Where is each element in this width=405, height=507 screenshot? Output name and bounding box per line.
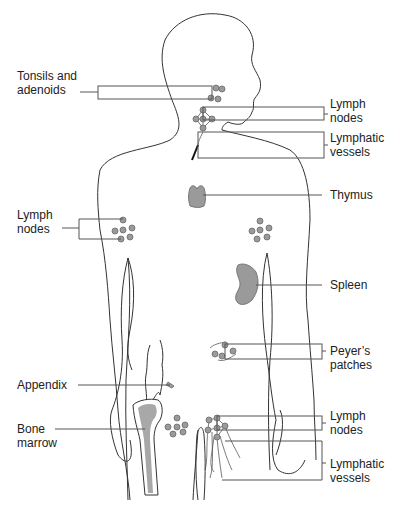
label-line: Lymph bbox=[330, 409, 366, 423]
inguinal-nodes-left bbox=[165, 415, 188, 437]
label-axillary-lymph-nodes: Lymph nodes bbox=[17, 208, 53, 236]
label-line: Lymph bbox=[17, 208, 53, 222]
label-line: Peyer’s bbox=[330, 344, 372, 358]
label-line: vessels bbox=[330, 471, 384, 485]
label-tonsils-and-adenoids: Tonsils and adenoids bbox=[17, 69, 77, 97]
label-neck-lymph-nodes: Lymph nodes bbox=[330, 97, 366, 125]
label-bone-marrow: Bone marrow bbox=[17, 422, 57, 450]
label-spleen: Spleen bbox=[330, 278, 367, 292]
label-line: Bone bbox=[17, 422, 57, 436]
axillary-nodes-left bbox=[112, 217, 135, 242]
label-neck-lymphatic-vessels: Lymphatic vessels bbox=[330, 131, 384, 159]
neck-vessel bbox=[198, 132, 203, 145]
inguinal-nodes-right bbox=[205, 415, 240, 478]
left-forearm bbox=[128, 258, 134, 370]
right-leg-inner bbox=[204, 435, 205, 500]
label-thymus: Thymus bbox=[330, 188, 373, 202]
label-peyers-patches: Peyer’s patches bbox=[330, 344, 372, 372]
label-line: patches bbox=[330, 358, 372, 372]
torso-left-side bbox=[126, 258, 130, 500]
peyers-patches bbox=[210, 342, 236, 361]
label-line: nodes bbox=[17, 222, 53, 236]
leader-lines bbox=[55, 86, 328, 480]
label-line: nodes bbox=[330, 423, 366, 437]
label-line: Tonsils and bbox=[17, 69, 77, 83]
colon bbox=[145, 340, 162, 405]
neck-lymph-nodes bbox=[193, 107, 215, 131]
label-line: Lymph bbox=[330, 97, 366, 111]
label-line: adenoids bbox=[17, 83, 77, 97]
label-line: Lymphatic bbox=[330, 131, 384, 145]
label-appendix: Appendix bbox=[17, 378, 67, 392]
label-groin-lymphatic-vessels: Lymphatic vessels bbox=[330, 457, 384, 485]
label-line: nodes bbox=[330, 111, 366, 125]
right-hand bbox=[276, 410, 283, 455]
label-line: Lymphatic bbox=[330, 457, 384, 471]
spleen bbox=[236, 264, 258, 305]
label-groin-lymph-nodes: Lymph nodes bbox=[330, 409, 366, 437]
neck-lymphatic-vessel-thick bbox=[192, 145, 198, 160]
thymus bbox=[189, 186, 206, 208]
label-line: marrow bbox=[17, 436, 57, 450]
label-line: vessels bbox=[330, 145, 384, 159]
axillary-nodes-right bbox=[249, 218, 272, 242]
